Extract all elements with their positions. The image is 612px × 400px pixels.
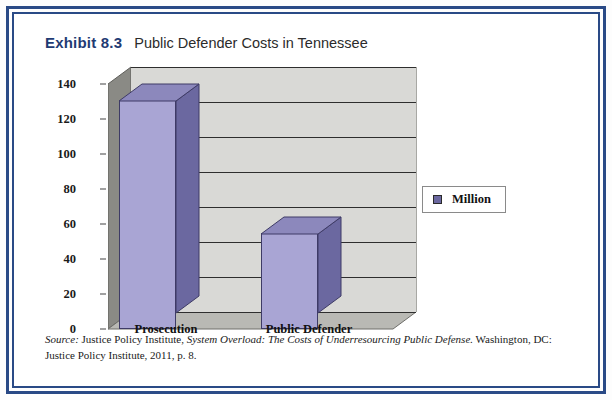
source-work-title: System Overload: The Costs of Underresou…: [187, 333, 473, 345]
y-tick-label: 60: [32, 217, 76, 232]
y-tick-mark: [100, 154, 106, 155]
bar-3d-faces: [261, 60, 341, 330]
source-note: Source: Justice Policy Institute, System…: [45, 332, 572, 364]
bar-public-defender[interactable]: [261, 60, 341, 330]
y-tick-mark: [100, 259, 106, 260]
source-publisher: Justice Policy Institute,: [82, 333, 184, 345]
exhibit-figure: Exhibit 8.3Public Defender Costs in Tenn…: [0, 0, 612, 400]
y-tick-mark: [100, 84, 106, 85]
y-tick-mark: [100, 294, 106, 295]
legend-label: Million: [452, 192, 491, 207]
bar-chart: 140 120 100 80 60 40 20 0: [76, 60, 586, 335]
y-tick-mark: [100, 329, 106, 330]
y-tick-label: 20: [32, 287, 76, 302]
source-prefix: Source:: [45, 333, 79, 345]
y-tick-label: 100: [32, 147, 76, 162]
legend-swatch-icon: [433, 195, 442, 204]
bar-prosecution[interactable]: [119, 60, 199, 330]
y-tick-label: 140: [32, 77, 76, 92]
chart-legend[interactable]: Million: [422, 186, 506, 213]
y-tick-mark: [100, 224, 106, 225]
y-tick-label: 120: [32, 112, 76, 127]
y-tick-mark: [100, 119, 106, 120]
y-tick-mark: [100, 189, 106, 190]
figure-content: Exhibit 8.3Public Defender Costs in Tenn…: [16, 16, 596, 384]
exhibit-header: Exhibit 8.3Public Defender Costs in Tenn…: [45, 34, 368, 52]
y-tick-label: 40: [32, 252, 76, 267]
bar-3d-faces: [119, 60, 199, 330]
exhibit-number: Exhibit 8.3: [45, 34, 122, 51]
y-tick-label: 80: [32, 182, 76, 197]
page-title: Public Defender Costs in Tennessee: [134, 35, 367, 51]
